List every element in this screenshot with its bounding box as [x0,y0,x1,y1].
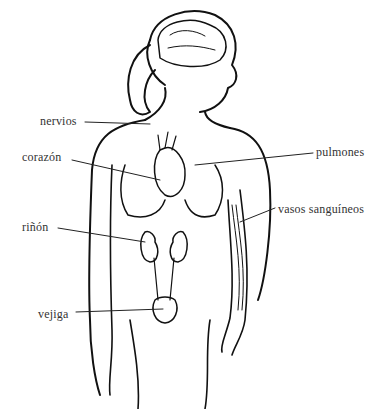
kidney-left [141,232,158,262]
torso-right [230,128,270,300]
kidney-right [170,232,187,262]
label-vejiga: vejiga [38,307,69,322]
label-rinon: riñón [22,220,48,235]
label-pulmones: pulmones [316,145,364,160]
bladder [153,297,177,323]
lungs [121,165,223,217]
blood-vessels [232,205,243,310]
label-nervios: nervios [40,114,77,129]
torso-left [89,120,145,395]
brain [158,20,226,66]
label-vasos-sanguineos: vasos sanguíneos [278,202,364,217]
neck [145,88,230,128]
heart [155,148,186,197]
head [128,11,236,114]
label-corazon: corazón [22,150,61,165]
